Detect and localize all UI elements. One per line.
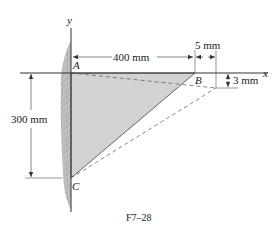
figure-canvas: y x A B C 400 mm 5 mm 3 mm 300 mm F7–28	[0, 0, 279, 242]
wall-support	[61, 40, 71, 210]
point-label-C: C	[72, 180, 80, 192]
figure-caption: F7–28	[126, 212, 152, 223]
dim-5-label: 5 mm	[195, 39, 221, 51]
point-label-B: B	[195, 74, 202, 86]
strain-diagram: y x A B C 400 mm 5 mm 3 mm 300 mm F7–28	[0, 0, 279, 242]
dim-3-label: 3 mm	[233, 74, 259, 86]
dim-300-label: 300 mm	[11, 113, 48, 125]
point-label-A: A	[72, 59, 80, 71]
dim-400-label: 400 mm	[113, 51, 150, 63]
x-axis-label: x	[262, 67, 268, 79]
y-axis-label: y	[66, 14, 72, 26]
triangular-plate	[71, 73, 195, 178]
